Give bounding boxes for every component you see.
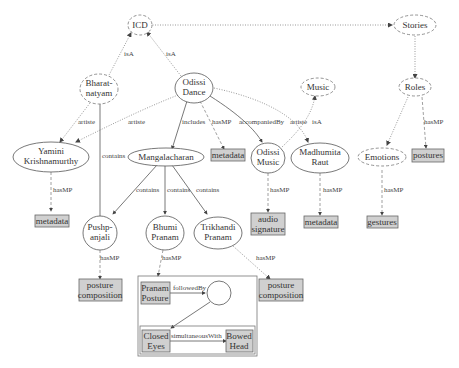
node-mangalacharan[interactable]: Mangalacharan	[128, 148, 204, 166]
edge-trikhandi-hasmp-posture	[233, 246, 270, 279]
node-bowed-head[interactable]: Bowed Head	[226, 330, 253, 352]
node-yamini-krishnamurthy[interactable]: Yamini Krishnamurthy	[13, 142, 89, 172]
edge-odissi-isa-icd	[147, 32, 181, 76]
edge-label-hasmp: hasMP	[270, 186, 290, 194]
svg-text:Madhumita: Madhumita	[299, 147, 341, 157]
svg-text:Closed: Closed	[143, 331, 169, 341]
nodes: ICD Stories Bharat- natyam Odissi Dance …	[13, 15, 444, 356]
svg-text:Bowed: Bowed	[226, 331, 252, 341]
svg-text:Odissi: Odissi	[256, 147, 280, 157]
edge-label-hasmp: hasMP	[100, 254, 120, 262]
node-roles[interactable]: Roles	[399, 78, 431, 96]
svg-text:posture: posture	[268, 280, 295, 290]
node-emotions[interactable]: Emotions	[358, 148, 406, 166]
svg-text:Dance: Dance	[183, 87, 206, 97]
svg-text:posture: posture	[87, 280, 114, 290]
node-odissi-music[interactable]: Odissi Music	[251, 143, 285, 173]
node-metadata-yamini[interactable]: metadata	[35, 215, 69, 227]
node-madhumita-raut[interactable]: Madhumita Raut	[291, 143, 349, 173]
node-pranam-posture[interactable]: Pranam Posture	[141, 282, 170, 304]
svg-text:Raut: Raut	[312, 157, 329, 167]
node-icd[interactable]: ICD	[128, 15, 152, 35]
node-posture-composition-right[interactable]: posture composition	[259, 279, 304, 301]
edge-label-hasmp: hasMP	[323, 186, 343, 194]
node-gestures[interactable]: gestures	[367, 216, 398, 228]
svg-text:metadata: metadata	[36, 216, 68, 226]
edge-label-isa: isA	[124, 50, 134, 58]
edge-odissi-artiste-madhumita	[214, 88, 308, 142]
svg-text:Head: Head	[230, 341, 249, 351]
node-metadata-madhumita[interactable]: metadata	[304, 216, 338, 228]
node-pushpanjali[interactable]: Pushp- anjali	[83, 216, 117, 250]
svg-text:metadata: metadata	[305, 217, 337, 227]
edge-circle-closedeyes	[171, 302, 210, 328]
svg-text:gestures: gestures	[367, 217, 397, 227]
svg-text:Bharat-: Bharat-	[86, 78, 113, 88]
svg-text:Roles: Roles	[405, 82, 426, 92]
edge-label-contains: contains	[167, 186, 191, 194]
svg-text:ICD: ICD	[132, 20, 148, 30]
edge-label-contains: contains	[196, 186, 220, 194]
svg-text:anjali: anjali	[90, 232, 110, 242]
node-odissi-dance[interactable]: Odissi Dance	[175, 73, 213, 103]
node-bhumi-pranam[interactable]: Bhumi Pranam	[146, 216, 184, 250]
svg-text:Pranam: Pranam	[151, 232, 179, 242]
node-postures[interactable]: postures	[412, 149, 444, 162]
edge-label-simultaneouswith: simultaneousWith	[171, 332, 222, 340]
svg-text:metadata: metadata	[212, 150, 244, 160]
node-metadata-odissi[interactable]: metadata	[211, 149, 245, 161]
svg-text:Eyes: Eyes	[147, 341, 165, 351]
svg-text:Mangalacharan: Mangalacharan	[138, 152, 194, 162]
edge-label-artiste: artiste	[78, 118, 95, 126]
node-trikhandi-pranam[interactable]: Trikhandi Pranam	[194, 217, 242, 249]
svg-text:Stories: Stories	[402, 20, 427, 30]
edge-label-contains: contains	[136, 186, 160, 194]
node-audio-signature[interactable]: audio signature	[251, 213, 285, 235]
edge-label-accompaniedby: accompaniedBy	[239, 118, 285, 126]
edge-label-hasmp: hasMP	[162, 254, 182, 262]
svg-text:Emotions: Emotions	[365, 152, 400, 162]
svg-text:natyam: natyam	[86, 88, 113, 98]
ontology-diagram: isA isA artiste artiste contains include…	[0, 0, 459, 368]
svg-text:Pranam: Pranam	[141, 283, 169, 293]
svg-text:Bhumi: Bhumi	[153, 222, 178, 232]
svg-text:Posture: Posture	[142, 293, 169, 303]
edge-label-hasmp: hasMP	[384, 186, 404, 194]
node-music[interactable]: Music	[301, 78, 335, 96]
edge-label-hasmp: hasMP	[256, 254, 276, 262]
edge-label-artiste: artiste	[128, 118, 145, 126]
svg-text:signature: signature	[252, 224, 285, 234]
edge-label-hasmp: hasMP	[424, 118, 444, 126]
svg-text:Yamini: Yamini	[38, 146, 65, 156]
edge-label-includes: includes	[182, 118, 206, 126]
node-posture-composition-left[interactable]: posture composition	[78, 279, 123, 301]
edge-label-contains: contains	[102, 152, 126, 160]
edge-label-hasmp: hasMP	[212, 118, 232, 126]
svg-text:Odissi: Odissi	[182, 77, 206, 87]
svg-text:audio: audio	[258, 214, 278, 224]
edge-roles-emotions	[387, 97, 408, 145]
node-empty-circle[interactable]	[207, 281, 231, 305]
svg-text:Krishnamurthy: Krishnamurthy	[24, 156, 79, 166]
edge-label-isa: isA	[166, 50, 176, 58]
svg-text:Music: Music	[257, 157, 280, 167]
svg-text:Trikhandi: Trikhandi	[200, 222, 236, 232]
svg-text:postures: postures	[413, 150, 443, 160]
svg-text:Music: Music	[307, 82, 330, 92]
node-closed-eyes[interactable]: Closed Eyes	[142, 330, 170, 352]
svg-text:Pushp-: Pushp-	[87, 222, 112, 232]
edge-label-isa: isA	[312, 118, 322, 126]
svg-text:composition: composition	[78, 290, 123, 300]
edge-label-followedby: followedBy	[173, 284, 207, 292]
node-bharatnatyam[interactable]: Bharat- natyam	[80, 74, 118, 104]
edge-label-hasmp: hasMP	[53, 186, 73, 194]
node-stories[interactable]: Stories	[394, 15, 436, 35]
edge-label-artiste: artiste	[290, 118, 307, 126]
svg-text:composition: composition	[259, 290, 304, 300]
svg-text:Pranam: Pranam	[204, 232, 232, 242]
